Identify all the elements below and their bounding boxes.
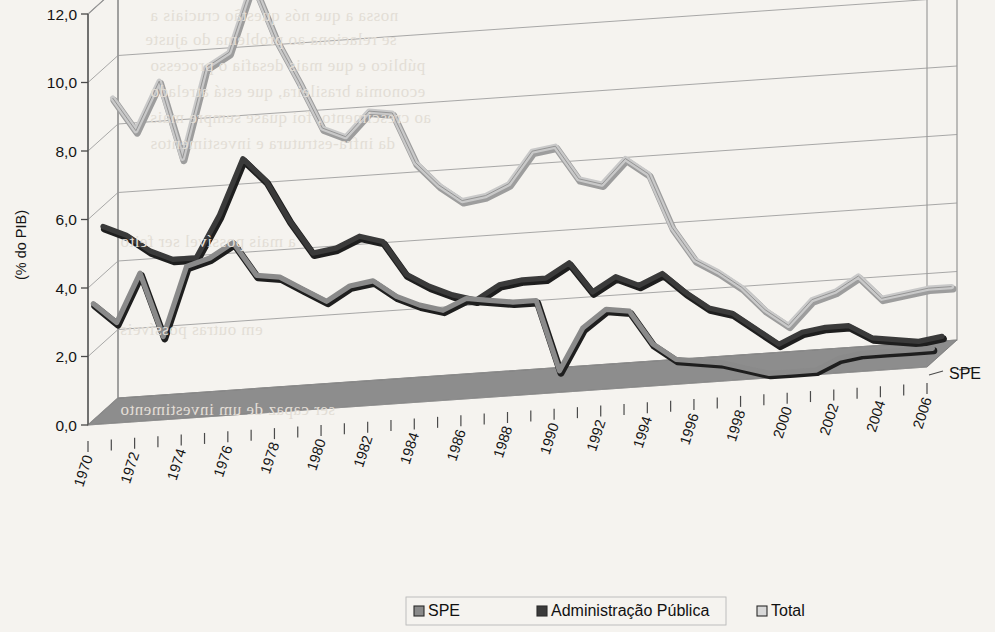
x-axis-tick-label: 1996	[677, 411, 702, 447]
x-axis-tick-label: 1984	[397, 430, 422, 466]
x-axis-tick-label: 1974	[164, 447, 189, 483]
left-wall	[88, 0, 118, 425]
back-wall	[118, 0, 957, 398]
z-axis-tick	[929, 371, 943, 375]
legend-swatch	[537, 606, 547, 616]
x-axis-tick-label: 1990	[537, 421, 562, 457]
x-axis-tick-label: 2000	[770, 405, 795, 441]
gridline-side	[88, 330, 118, 357]
gridline	[118, 66, 957, 124]
x-axis-tick-label: 1980	[304, 437, 329, 473]
data-series-group	[93, 0, 953, 376]
y-axis-tick-label: 12,0	[47, 6, 78, 23]
legend: SPEAdministração PúblicaTotal	[406, 597, 805, 625]
legend-label: Total	[771, 602, 805, 619]
x-axis-tick-label: 2002	[816, 401, 841, 437]
y-axis-title: (% do PIB)	[13, 210, 29, 280]
legend-item-spe[interactable]: SPE	[414, 602, 460, 619]
legend-label: Administração Pública	[551, 602, 709, 619]
x-axis-tick-label: 1998	[723, 408, 748, 444]
legend-label: SPE	[428, 602, 460, 619]
y-axis: 0,02,04,06,08,010,012,0(% do PIB)	[13, 6, 88, 434]
legend-item-administra-o-p-blica[interactable]: Administração Pública	[537, 602, 709, 619]
x-axis-tick-label: 1982	[350, 434, 375, 470]
gridline-side	[88, 261, 118, 288]
gridline-side	[88, 124, 118, 151]
x-axis-tick-label: 1994	[630, 414, 655, 450]
y-axis-tick-label: 4,0	[55, 280, 77, 297]
x-axis-tick-label: 1976	[210, 443, 235, 479]
legend-swatch	[757, 606, 767, 616]
gridline-side	[88, 193, 118, 220]
x-axis-tick-label: 1992	[583, 418, 608, 454]
x-axis-tick-label: 1986	[444, 427, 469, 463]
y-axis-tick-label: 0,0	[55, 417, 77, 434]
perspective-line-chart: 0,02,04,06,08,010,012,0(% do PIB)1970197…	[0, 0, 995, 632]
x-axis-tick-label: 1978	[257, 440, 282, 476]
y-axis-tick-label: 8,0	[55, 143, 77, 160]
x-axis-tick-label: 1988	[490, 424, 515, 460]
chart-figure: nossa a que nós questão cruciais ase rel…	[0, 0, 995, 632]
gridline-side	[88, 0, 118, 14]
x-axis-tick-label: 1970	[71, 453, 96, 489]
y-axis-tick-label: 2,0	[55, 348, 77, 365]
x-axis-tick-label: 2004	[863, 398, 888, 434]
legend-item-total[interactable]: Total	[757, 602, 805, 619]
x-axis-tick-label: 2006	[910, 395, 935, 431]
y-axis-tick-label: 10,0	[47, 74, 78, 91]
legend-swatch	[414, 606, 424, 616]
gridline-side	[88, 56, 118, 83]
x-axis-tick-label: 1972	[117, 450, 142, 486]
z-axis: SPE	[929, 365, 981, 382]
y-axis-tick-label: 6,0	[55, 211, 77, 228]
z-axis-label: SPE	[949, 365, 981, 382]
